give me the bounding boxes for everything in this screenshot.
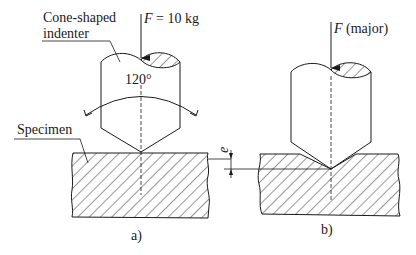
specimen-a — [71, 153, 209, 218]
indenter-label-line2: indenter — [43, 26, 89, 41]
depth-label: e — [216, 147, 231, 153]
panel-b-label: b) — [321, 222, 333, 238]
panel-b: F (major) e b) — [208, 21, 400, 238]
hardness-test-diagram: Cone-shaped indenter F = 10 kg 120° Spec… — [0, 0, 416, 255]
angle-label: 120° — [125, 72, 152, 87]
specimen-b — [258, 154, 400, 216]
panel-a: Cone-shaped indenter F = 10 kg 120° Spec… — [14, 10, 209, 244]
force-label-b: F (major) — [333, 21, 388, 37]
specimen-label: Specimen — [17, 122, 72, 137]
panel-a-label: a) — [131, 228, 142, 244]
indenter-label-line1: Cone-shaped — [43, 10, 116, 25]
force-label-a: F = 10 kg — [143, 11, 199, 26]
